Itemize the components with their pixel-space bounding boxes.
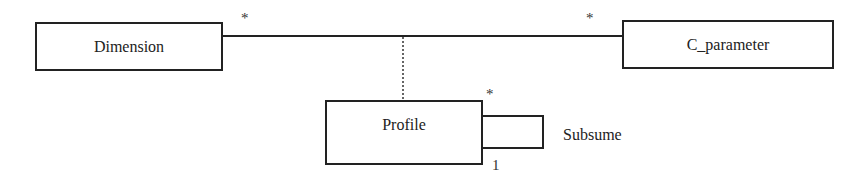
multiplicity-profile-one: 1 (492, 157, 500, 174)
class-name-dimension: Dimension (94, 38, 164, 56)
multiplicity-dimension: * (241, 10, 249, 27)
multiplicity-c-parameter: * (586, 10, 594, 27)
class-c-parameter[interactable]: C_parameter (622, 20, 834, 69)
class-dimension[interactable]: Dimension (35, 22, 223, 71)
class-profile[interactable]: Profile (325, 100, 483, 165)
multiplicity-profile-many: * (486, 86, 494, 103)
class-name-c-parameter: C_parameter (687, 36, 770, 54)
association-name-subsume: Subsume (563, 126, 622, 144)
subsume-self-association-loop (482, 116, 543, 148)
class-name-profile: Profile (382, 116, 426, 134)
